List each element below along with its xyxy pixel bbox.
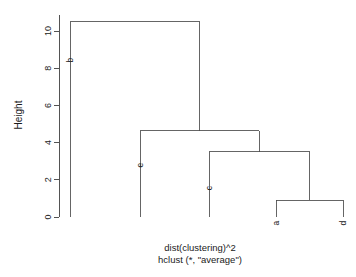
y-tick-label-0: 0 (43, 214, 53, 219)
caption-line-1: dist(clustering)^2 (164, 242, 236, 253)
leaf-label-e: e (135, 162, 145, 167)
leaf-label-b: b (65, 57, 75, 62)
dendrogram-plot: 0246810 becad Height dist(clustering)^2h… (0, 0, 356, 277)
y-tick-label-8: 8 (43, 66, 53, 71)
leaf-label-d: d (338, 220, 348, 225)
y-axis-title-text: Height (13, 100, 24, 129)
plot-canvas: 0246810 becad Height dist(clustering)^2h… (0, 0, 356, 277)
y-axis: 0246810 (43, 15, 59, 220)
y-axis-title: Height (13, 100, 24, 129)
y-tick-label-10: 10 (43, 26, 53, 36)
plot-caption: dist(clustering)^2hclust (*, "average") (158, 242, 242, 265)
y-tick-label-2: 2 (43, 177, 53, 182)
leaf-label-a: a (271, 220, 281, 225)
y-tick-label-6: 6 (43, 103, 53, 108)
caption-line-2: hclust (*, "average") (158, 254, 242, 265)
y-tick-label-4: 4 (43, 140, 53, 145)
